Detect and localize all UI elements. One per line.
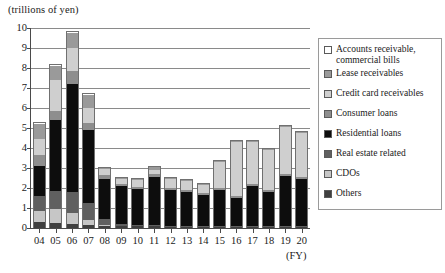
bar-stack[interactable] (279, 125, 292, 228)
legend-item-label: Credit card receivables (336, 88, 424, 99)
bar-segment (82, 108, 95, 123)
x-tick-mark (236, 229, 237, 233)
bar-segment (66, 213, 79, 224)
bar-stack[interactable] (164, 177, 177, 228)
legend-item[interactable]: Lease receivables (324, 68, 438, 85)
bar-stack[interactable] (180, 179, 193, 228)
bar-segment (148, 177, 161, 225)
bar-stack[interactable] (98, 167, 111, 228)
bar-stack[interactable] (213, 160, 226, 228)
bar-stack[interactable] (115, 177, 128, 228)
legend-item-label: Accounts receivable, commercial bills (336, 44, 416, 65)
bar-segment (66, 71, 79, 84)
bar-segment (82, 203, 95, 220)
legend-item[interactable]: Residential loans (324, 128, 438, 145)
legend-swatch-icon (324, 110, 332, 118)
legend-swatch-icon (324, 170, 332, 178)
bar-segment (131, 180, 144, 187)
legend-item-label: Residential loans (336, 128, 401, 139)
bar-segment (82, 130, 95, 203)
bar-segment (180, 227, 193, 228)
bar-segment (33, 139, 46, 155)
bar-segment (33, 211, 46, 222)
x-tick-mark (138, 229, 139, 233)
bar-segment (279, 176, 292, 227)
x-tick-mark (203, 229, 204, 233)
plot-area (31, 28, 310, 228)
bar-segment (230, 198, 243, 226)
x-tick-mark (220, 229, 221, 233)
x-tick-mark (285, 229, 286, 233)
bar-segment (164, 179, 177, 189)
bar-segment (295, 179, 308, 227)
bar-segment (246, 142, 259, 184)
legend-item-label: Lease receivables (336, 68, 403, 79)
legend-swatch-icon (324, 90, 332, 98)
bar-segment (164, 227, 177, 228)
legend-item[interactable]: Consumer loans (324, 108, 438, 125)
y-tick-label: 7 (5, 83, 27, 93)
bar-segment (49, 209, 62, 223)
legend-item-label: Real estate related (336, 148, 406, 159)
legend-item[interactable]: Credit card receivables (324, 88, 438, 105)
legend-item[interactable]: Others (324, 188, 438, 205)
bar-stack[interactable] (131, 178, 144, 228)
x-tick-mark (105, 229, 106, 233)
bar-stack[interactable] (49, 64, 62, 228)
bar-segment (230, 227, 243, 228)
x-tick-mark (121, 229, 122, 233)
bar-stack[interactable] (33, 122, 46, 228)
legend-item-label: Consumer loans (336, 108, 397, 119)
bar-segment (262, 227, 275, 228)
legend-item[interactable]: CDOs (324, 168, 438, 185)
bar-segment (246, 227, 259, 228)
bar-stack[interactable] (197, 183, 210, 228)
bar-stack[interactable] (246, 140, 259, 228)
bar-segment (49, 66, 62, 80)
bar-stack[interactable] (262, 148, 275, 228)
bar-segment (49, 80, 62, 111)
bar-stack[interactable] (230, 140, 243, 228)
bar-segment (49, 120, 62, 192)
legend-swatch-icon (324, 150, 332, 158)
bar-segment (33, 222, 46, 228)
y-tick-label: 0 (5, 223, 27, 233)
bar-segment (197, 195, 210, 226)
bar-segment (295, 133, 308, 177)
bar-segment (164, 190, 177, 225)
bar-segment (131, 226, 144, 228)
gridline (31, 28, 310, 29)
chart-legend: Accounts receivable, commercial billsLea… (318, 38, 442, 210)
x-tick-mark (56, 229, 57, 233)
bar-stack[interactable] (148, 166, 161, 228)
bar-stack[interactable] (66, 31, 79, 228)
bar-segment (33, 155, 46, 166)
bar-segment (197, 185, 210, 193)
bar-segment (213, 162, 226, 188)
bar-segment (180, 192, 193, 226)
bar-segment (66, 192, 79, 213)
bar-segment (262, 150, 275, 190)
bar-segment (82, 123, 95, 130)
x-tick-mark (171, 229, 172, 233)
y-tick-label: 3 (5, 163, 27, 173)
bar-segment (180, 181, 193, 190)
legend-item[interactable]: Real estate related (324, 148, 438, 165)
bar-segment (115, 186, 128, 224)
bar-segment (230, 142, 243, 196)
bar-stack[interactable] (82, 93, 95, 228)
x-tick-mark (269, 229, 270, 233)
x-tick-mark (154, 229, 155, 233)
bar-stack[interactable] (295, 131, 308, 228)
legend-item[interactable]: Accounts receivable, commercial bills (324, 44, 438, 65)
bar-segment (213, 190, 226, 226)
x-tick-mark (302, 229, 303, 233)
bar-segment (98, 179, 111, 219)
bar-segment (66, 48, 79, 71)
bar-segment (98, 226, 111, 228)
y-tick-label: 5 (5, 123, 27, 133)
bar-segment (66, 224, 79, 228)
x-tick-label: 20 (292, 235, 312, 247)
bar-segment (33, 196, 46, 211)
bar-segment (66, 84, 79, 192)
